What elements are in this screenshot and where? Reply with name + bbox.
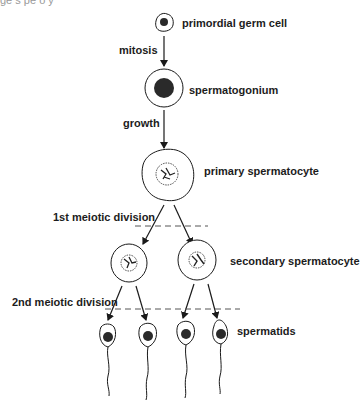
meiosis2-arrow-2 (136, 286, 146, 320)
label-growth: growth (123, 117, 160, 129)
spermatogenesis-diagram: ge s pe o y (0, 0, 361, 404)
label-spermatogonium: spermatogonium (189, 84, 278, 96)
secondary-spermatocyte-right-shape (178, 240, 216, 280)
meiosis2-arrow-4 (208, 284, 217, 318)
spermatid-2-shape (139, 323, 157, 400)
label-second-meiotic-division: 2nd meiotic division (12, 296, 118, 308)
label-spermatids: spermatids (237, 325, 296, 337)
primary-spermatocyte-shape (142, 149, 194, 200)
spermatid-3-shape (177, 321, 195, 398)
label-mitosis: mitosis (119, 44, 158, 56)
spermatid-1-shape (100, 324, 116, 396)
diagram-graphics (0, 0, 361, 404)
label-primordial-germ-cell: primordial germ cell (182, 17, 287, 29)
meiosis2-arrow-3 (183, 284, 194, 318)
label-primary-spermatocyte: primary spermatocyte (204, 165, 319, 177)
primordial-germ-cell-shape (156, 13, 174, 31)
label-first-meiotic-division: 1st meiotic division (53, 211, 155, 223)
meiosis1-right-arrow (174, 205, 192, 244)
cropped-caption-text: ge s pe o y (0, 0, 54, 6)
label-secondary-spermatocyte: secondary spermatocyte (230, 255, 360, 267)
spermatogonium-shape (145, 69, 183, 107)
secondary-spermatocyte-left-shape (111, 244, 147, 282)
spermatid-4-shape (213, 320, 228, 394)
